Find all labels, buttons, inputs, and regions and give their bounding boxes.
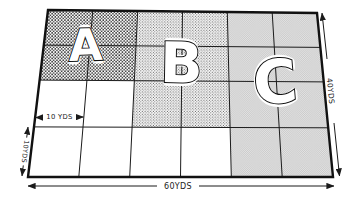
dim-cell-width-label: 10 YDS [46, 113, 72, 121]
dimension-line [22, 165, 23, 176]
dim-bottom-width-label: 60YDS [164, 182, 192, 191]
dimension-line [334, 123, 340, 176]
dim-bottom-width: 60YDS [28, 182, 334, 191]
zone-c-label: C [250, 45, 300, 119]
dim-cell-height-label: 10YDS [20, 140, 31, 164]
dim-cell-width: 10 YDS [36, 113, 84, 121]
dimension-line [27, 127, 28, 138]
zone-b-label: B [160, 30, 204, 96]
dimension-line [322, 13, 327, 59]
diagram-svg: A A B B C C 10 YDS 10YDS 40YDS 60YDS [0, 0, 362, 202]
field-diagram: A A B B C C 10 YDS 10YDS 40YDS 60YDS [0, 0, 362, 202]
zone-a-label: A [68, 19, 104, 71]
